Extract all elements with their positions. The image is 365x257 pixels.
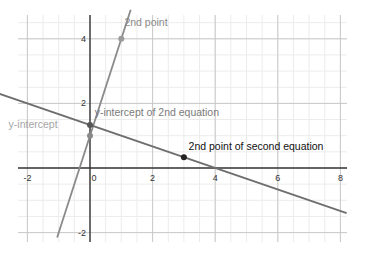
y-tick-label: 2 (81, 98, 86, 108)
point-y-intercept (87, 133, 93, 139)
x-tick-label: 6 (275, 173, 280, 183)
line-series-1 (57, 10, 131, 238)
annotation-label: y-intercept (9, 118, 58, 130)
coordinate-plane: -202468-2242nd pointy-intercept of 2nd e… (0, 0, 365, 257)
annotation-label: 2nd point of second equation (189, 140, 324, 152)
x-tick-label: -2 (23, 173, 31, 183)
point-2nd-point-of-second-equation (181, 154, 187, 160)
x-tick-label: 2 (150, 173, 155, 183)
point-2nd-point (118, 36, 124, 42)
x-tick-label: 0 (91, 173, 96, 183)
annotation-label: 2nd point (124, 16, 167, 28)
annotation-label: y-intercept of 2nd equation (95, 106, 219, 118)
y-tick-label: -2 (78, 228, 86, 238)
x-tick-label: 8 (338, 173, 343, 183)
x-tick-label: 4 (213, 173, 218, 183)
point-y-intercept-of-2nd-equation (87, 122, 93, 128)
y-tick-label: 4 (81, 34, 86, 44)
